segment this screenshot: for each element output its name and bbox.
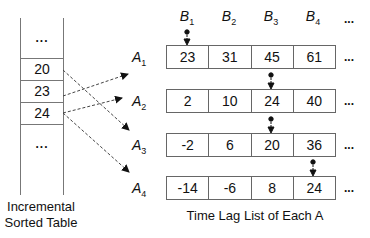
arrows-layer bbox=[0, 0, 370, 238]
pointer-a1 bbox=[184, 30, 190, 45]
pointer-a4 bbox=[310, 160, 316, 176]
pointer-a2 bbox=[268, 73, 274, 89]
pointer-a3 bbox=[268, 117, 274, 133]
arrow-24-to-a2 bbox=[63, 98, 122, 113]
arrow-23-to-a1 bbox=[63, 74, 128, 96]
arrow-20-to-a3 bbox=[63, 70, 129, 130]
arrow-24-to-a4 bbox=[63, 113, 129, 172]
